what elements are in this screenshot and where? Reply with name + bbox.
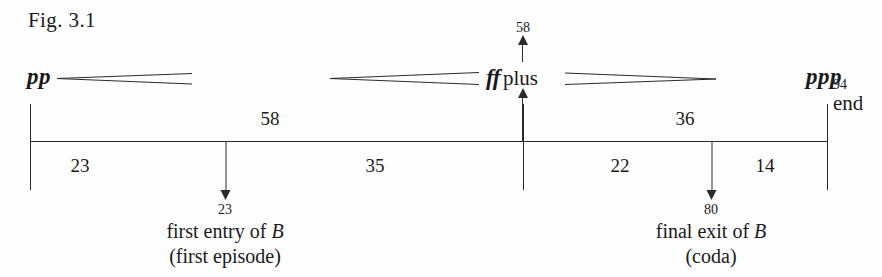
timeline-axis: [30, 141, 828, 142]
lower-span-label-1: 23: [71, 155, 90, 177]
timeline-tick-middle: [523, 104, 524, 190]
timeline-tick-start: [30, 104, 31, 190]
figure-container: Fig. 3.1 pp ppp ffplus 58 94 end 58 36 2…: [0, 0, 882, 277]
timeline-end-marker: 94 end: [833, 78, 863, 114]
climax-upper-arrow-shaft: [522, 42, 523, 62]
lower-span-label-3: 22: [611, 155, 630, 177]
lower-span-label-2: 35: [366, 155, 385, 177]
event-caption-text: final exit of: [656, 220, 754, 242]
event-arrow-shaft: [711, 142, 712, 194]
event-caption-text: first entry of: [166, 220, 271, 242]
dynamic-marking-ff: ff: [486, 65, 500, 90]
event-caption-section-letter: B: [754, 220, 766, 242]
event-caption-line-1: final exit of B: [656, 220, 767, 243]
event-caption-line-2: (first episode): [169, 245, 281, 268]
timeline-tick-end: [827, 104, 828, 190]
event-bar-number: 80: [704, 202, 718, 218]
lower-span-label-4: 14: [756, 155, 775, 177]
dynamic-marking-ff-plus: ffplus: [486, 65, 538, 91]
upper-span-label-1: 58: [261, 108, 280, 130]
event-caption-line-1: first entry of B: [166, 220, 283, 243]
event-bar-number: 23: [218, 202, 232, 218]
event-arrowhead-icon: [220, 190, 230, 200]
event-caption-section-letter: B: [271, 220, 283, 242]
event-arrowhead-icon: [706, 190, 716, 200]
end-bar-number: 94: [833, 78, 863, 92]
diminuendo-hairpin-1: [563, 70, 721, 88]
event-caption-line-2: (coda): [685, 245, 736, 268]
crescendo-hairpin-1: [57, 70, 197, 88]
event-arrow-shaft: [225, 142, 226, 194]
dynamic-marking-pp: pp: [27, 64, 51, 90]
climax-bar-number: 58: [516, 20, 530, 36]
figure-label: Fig. 3.1: [28, 8, 96, 33]
end-label: end: [833, 93, 863, 114]
upper-span-label-2: 36: [676, 108, 695, 130]
crescendo-hairpin-2: [330, 70, 485, 88]
dynamic-marking-plus-word: plus: [500, 66, 538, 90]
